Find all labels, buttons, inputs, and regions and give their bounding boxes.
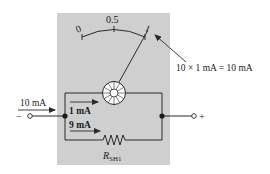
annotation-text: 10 × 1 mA = 10 mA (176, 63, 253, 73)
terminal-positive[interactable] (192, 114, 197, 119)
terminal-positive-label: + (199, 111, 205, 122)
junction-left (62, 113, 67, 118)
ammeter-shunt-diagram: 0 0.5 1 10 × 1 mA = 10 mA (0, 0, 270, 174)
input-current-label: 10 mA (20, 98, 46, 108)
scale-label-0.5: 0.5 (106, 14, 119, 25)
terminal-negative-label: − (16, 111, 22, 122)
branch-shunt-label: 9 mA (69, 120, 91, 130)
terminal-negative[interactable] (28, 114, 33, 119)
junction-right (159, 113, 164, 118)
meter-movement-icon (103, 82, 126, 105)
branch-meter-label: 1 mA (69, 106, 91, 116)
